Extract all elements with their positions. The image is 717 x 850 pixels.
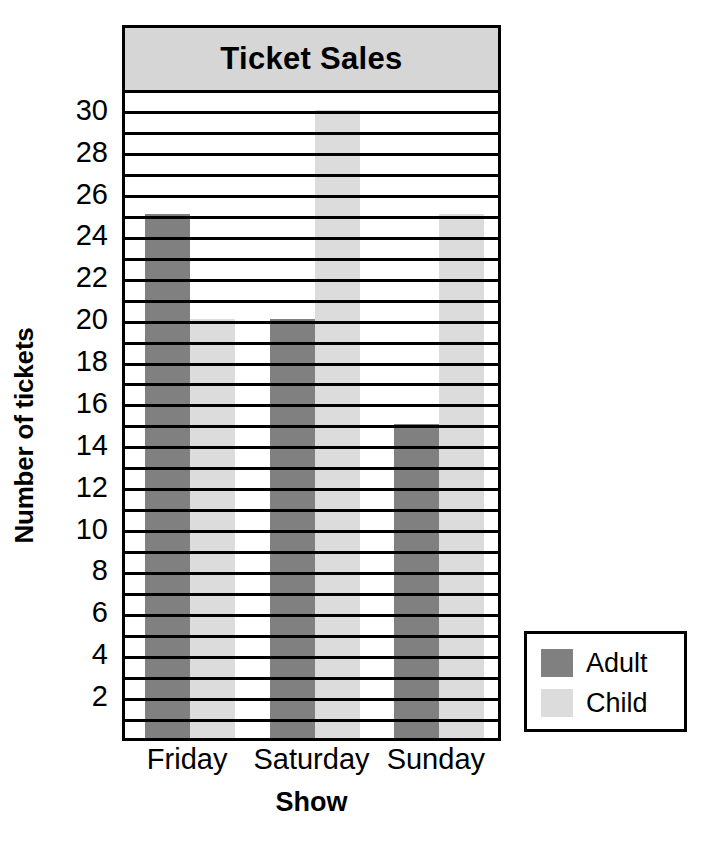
y-tick-label: 18	[76, 347, 108, 376]
gridline	[125, 153, 498, 156]
gridline	[125, 279, 498, 282]
gridline	[125, 300, 498, 303]
chart-title-bar: Ticket Sales	[125, 28, 498, 93]
bar-saturday-adult	[270, 319, 315, 738]
legend-swatch-adult-icon	[541, 649, 573, 677]
gridline	[125, 132, 498, 135]
gridline	[125, 383, 498, 386]
gridline	[125, 404, 498, 407]
gridline	[125, 698, 498, 701]
gridline	[125, 719, 498, 722]
bar-sunday-child	[439, 214, 484, 738]
gridline	[125, 111, 498, 114]
gridline	[125, 363, 498, 366]
y-tick-label: 10	[76, 514, 108, 543]
legend-swatch-child-icon	[541, 689, 573, 717]
bar-friday-adult	[145, 214, 190, 738]
y-tick-label: 4	[92, 640, 108, 669]
legend-item-adult: Adult	[541, 643, 684, 683]
y-axis-title-text: Number of tickets	[9, 327, 40, 543]
bar-saturday-child	[315, 110, 360, 738]
gridline	[125, 258, 498, 261]
gridline	[125, 446, 498, 449]
chart-frame: Ticket Sales	[122, 25, 501, 741]
y-tick-label: 16	[76, 388, 108, 417]
gridline	[125, 677, 498, 680]
y-tick-label: 6	[92, 598, 108, 627]
x-axis-tick-labels: FridaySaturdaySunday	[122, 745, 501, 785]
y-tick-label: 26	[76, 179, 108, 208]
gridline	[125, 530, 498, 533]
gridline	[125, 572, 498, 575]
gridline	[125, 551, 498, 554]
gridline	[125, 195, 498, 198]
legend-label: Child	[586, 690, 648, 717]
legend-item-child: Child	[541, 683, 684, 723]
y-tick-label: 28	[76, 137, 108, 166]
x-axis-title: Show	[122, 787, 501, 818]
chart-legend: AdultChild	[524, 631, 687, 732]
gridline	[125, 342, 498, 345]
gridline	[125, 593, 498, 596]
gridline	[125, 656, 498, 659]
gridline	[125, 614, 498, 617]
gridline	[125, 509, 498, 512]
x-tick-label-sunday: Sunday	[387, 745, 485, 774]
gridline	[125, 321, 498, 324]
x-tick-label-friday: Friday	[147, 745, 228, 774]
legend-label: Adult	[586, 650, 648, 677]
y-tick-label: 24	[76, 221, 108, 250]
plot-area	[125, 96, 498, 738]
y-tick-label: 30	[76, 95, 108, 124]
gridline	[125, 467, 498, 470]
y-tick-label: 20	[76, 305, 108, 334]
y-tick-label: 12	[76, 472, 108, 501]
y-axis-tick-labels: 24681012141618202224262830	[48, 100, 116, 740]
y-tick-label: 14	[76, 430, 108, 459]
x-tick-label-saturday: Saturday	[253, 745, 369, 774]
gridline	[125, 237, 498, 240]
gridline	[125, 174, 498, 177]
gridline	[125, 216, 498, 219]
bar-friday-child	[190, 319, 235, 738]
chart-title: Ticket Sales	[220, 41, 402, 77]
y-tick-label: 2	[92, 682, 108, 711]
y-tick-label: 22	[76, 263, 108, 292]
gridline	[125, 425, 498, 428]
y-axis-title: Number of tickets	[2, 255, 46, 615]
gridline	[125, 635, 498, 638]
y-tick-label: 8	[92, 556, 108, 585]
gridline	[125, 488, 498, 491]
bar-sunday-adult	[394, 424, 439, 738]
